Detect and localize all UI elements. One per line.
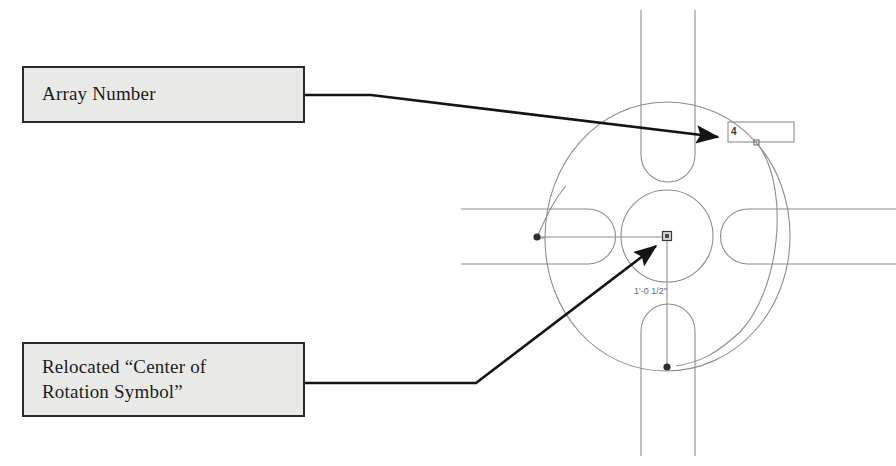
leader-lines — [305, 95, 718, 383]
callout-label-rotation-symbol: Relocated “Center of Rotation Symbol” — [24, 355, 216, 404]
grip-markers — [533, 232, 671, 371]
array-arm-top — [641, 10, 695, 182]
callout-box-rotation-symbol[interactable]: Relocated “Center of Rotation Symbol” — [22, 342, 305, 417]
rotation-grip-inner-icon — [665, 234, 669, 238]
array-count-value: 4 — [731, 126, 737, 137]
array-arm-right — [721, 209, 896, 264]
callout-label-array-number: Array Number — [24, 82, 166, 107]
grip-dot-bottom-arm[interactable] — [663, 363, 670, 370]
dimension-value: 1'-0 1/2" — [634, 286, 667, 296]
grip-connector-array-number — [676, 146, 777, 366]
array-arm-bottom — [641, 304, 695, 456]
leader-array-number — [305, 95, 718, 137]
figure-canvas: Array Number Relocated “Center of Rotati… — [0, 0, 896, 466]
grip-dot-left-arm[interactable] — [533, 233, 540, 240]
leader-rotation-symbol — [305, 246, 656, 383]
cad-geometry — [461, 10, 896, 456]
callout-box-array-number[interactable]: Array Number — [22, 66, 305, 123]
